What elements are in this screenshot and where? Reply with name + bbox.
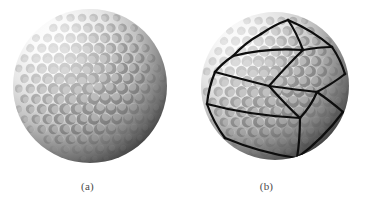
figure-root: (a) (0, 0, 370, 200)
mesh-node (268, 85, 271, 88)
mesh-node (344, 73, 347, 76)
mesh-node (260, 33, 263, 36)
ball-rim-shading-a (13, 9, 167, 163)
figure-panel-a: (a) (0, 0, 185, 200)
golf-ball-image-a (0, 0, 185, 178)
ball-stage-b (185, 0, 370, 178)
mesh-node (232, 55, 235, 58)
mesh-node (214, 71, 217, 74)
mesh-node (302, 49, 305, 52)
mesh-node (206, 103, 209, 106)
figure-panel-b: (b) (185, 0, 370, 200)
mesh-node (342, 111, 345, 114)
ball-stage-a (0, 0, 185, 178)
panel-caption-a: (a) (0, 179, 180, 193)
panel-caption-b: (b) (174, 179, 359, 193)
mesh-node (331, 46, 334, 49)
mesh-node (316, 91, 319, 94)
golf-ball-image-b (185, 0, 370, 178)
mesh-node (224, 137, 227, 140)
mesh-node (299, 117, 302, 120)
mesh-node (287, 19, 290, 22)
mesh-node (296, 157, 299, 160)
